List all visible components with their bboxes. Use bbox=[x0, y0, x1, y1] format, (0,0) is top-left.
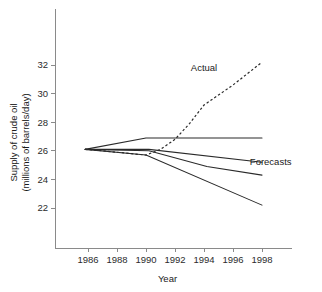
x-axis-title: Year bbox=[158, 273, 177, 284]
y-axis-title-line1: Supply of crude oil bbox=[8, 103, 19, 181]
y-tick-label: 26 bbox=[37, 145, 48, 156]
axes bbox=[55, 9, 292, 248]
series-annotation-label: Actual bbox=[191, 62, 217, 73]
series-annotations: ActualForecasts bbox=[191, 62, 292, 167]
series-line bbox=[85, 62, 262, 155]
chart-figure: 2224262830321986198819901992199419961998… bbox=[0, 0, 322, 292]
x-tick-label: 1990 bbox=[135, 254, 156, 265]
x-tick-label: 1992 bbox=[164, 254, 185, 265]
x-tick-label: 1986 bbox=[77, 254, 98, 265]
line-chart: 2224262830321986198819901992199419961998… bbox=[0, 0, 322, 292]
x-tick-label: 1996 bbox=[222, 254, 243, 265]
y-axis-title-line2: (millions of barrels/day) bbox=[20, 93, 31, 191]
y-tick-label: 32 bbox=[37, 59, 48, 70]
series-annotation-label: Forecasts bbox=[250, 156, 292, 167]
y-tick-label: 22 bbox=[37, 202, 48, 213]
y-tick-label: 24 bbox=[37, 174, 48, 185]
data-series bbox=[85, 62, 262, 205]
y-tick-label: 30 bbox=[37, 88, 48, 99]
y-tick-label: 28 bbox=[37, 117, 48, 128]
tick-labels: 2224262830321986198819901992199419961998 bbox=[37, 59, 272, 265]
x-tick-label: 1988 bbox=[106, 254, 127, 265]
series-line bbox=[85, 149, 262, 162]
x-tick-label: 1994 bbox=[193, 254, 214, 265]
x-tick-label: 1998 bbox=[251, 254, 272, 265]
series-line bbox=[85, 149, 262, 175]
